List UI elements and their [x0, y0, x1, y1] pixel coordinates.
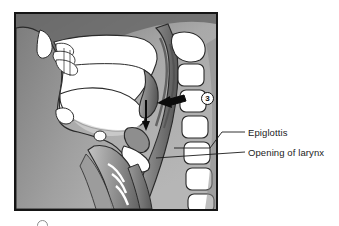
figure-root: Epiglottis Opening of larynx 3 — [0, 0, 339, 226]
anatomy-figure-frame — [14, 12, 218, 211]
label-epiglottis: Epiglottis — [248, 127, 288, 138]
anatomy-illustration — [16, 14, 216, 209]
hyoid-bone — [94, 131, 106, 141]
bottom-partial-marker-icon — [37, 220, 48, 226]
step-marker-3: 3 — [201, 92, 214, 105]
label-opening-of-larynx: Opening of larynx — [248, 147, 324, 158]
